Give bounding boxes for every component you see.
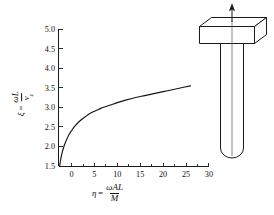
x-tick-marks [72,163,209,167]
x-axis-variable: η [92,189,96,198]
x-axis-equals: = [98,189,103,198]
x-tick-label-3: 15 [136,170,144,179]
y-tick-label-6: 4.5 [45,45,55,54]
y-tick-label-3: 3.0 [45,103,55,112]
y-tick-label-0: 1.5 [45,162,55,171]
data-curve [60,86,191,166]
y-axis-label: ξ = ωL vε [12,72,32,134]
x-tick-label-0: 0 [69,170,73,179]
y-axis-equals: = [17,106,26,111]
y-tick-label-5: 4.0 [45,64,55,73]
y-tick-label-2: 2.5 [45,123,55,132]
x-axis-numerator: ωAL [105,183,124,193]
chart-figure: 1.5 2.0 2.5 3.0 3.5 4.0 4.5 5.0 [0,0,274,215]
x-tick-label-1: 5 [92,170,96,179]
x-axis-label: η = ωAL M [92,183,124,203]
y-axis-denominator-sub: ε [28,94,34,96]
rod-with-tip-mass-sketch [200,3,267,158]
x-tick-label-6: 30 [205,170,213,179]
figure-page: 1.5 2.0 2.5 3.0 3.5 4.0 4.5 5.0 [0,0,274,215]
y-tick-label-1: 2.0 [45,142,55,151]
y-axis-denominator-base: v [21,96,31,100]
x-axis-fraction: ωAL M [105,183,124,203]
x-axis-denominator: M [110,193,120,204]
y-tick-label-4: 3.5 [45,84,55,93]
x-tick-label-2: 10 [113,170,121,179]
y-axis-numerator: ωL [11,90,21,103]
y-tick-marks [59,29,63,166]
y-axis-variable: ξ [17,112,26,116]
y-axis-denominator: vε [21,93,33,101]
y-tick-label-7: 5.0 [45,25,55,34]
figure-svg: 1.5 2.0 2.5 3.0 3.5 4.0 4.5 5.0 [0,0,274,215]
x-tick-label-5: 25 [182,170,190,179]
x-tick-label-4: 20 [159,170,167,179]
y-axis-fraction: ωL vε [11,90,33,103]
block-front-face [200,27,255,44]
